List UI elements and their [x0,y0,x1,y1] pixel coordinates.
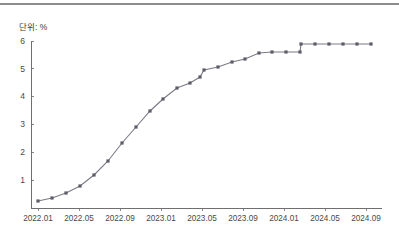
series-data-point [369,42,372,45]
series-data-point [188,81,191,84]
y-tick-label: 1 [20,175,25,185]
series-data-point [161,97,164,100]
series-data-point [64,191,67,194]
y-tick-label: 6 [20,36,25,46]
x-tick-label: 2024.09 [351,214,381,223]
x-tick-label: 2022.05 [64,214,94,223]
x-tick-label: 2023.05 [187,214,217,223]
series-data-point [148,109,151,112]
x-tick-label: 2024.01 [269,214,299,223]
series-data-point [216,65,219,68]
series-data-point [270,50,273,53]
x-axis-labels: 2022.012022.052022.092023.012023.052023.… [23,214,381,223]
series-data-point [284,50,287,53]
series-data-point [78,184,81,187]
x-tick-label: 2024.05 [310,214,340,223]
chart-container: 단위: % 2022.012022.052022.092023.012023.0… [0,0,399,242]
series-data-point [202,68,205,71]
series-data-point [120,141,123,144]
series-data-point [134,125,137,128]
series-data-point [298,50,301,53]
y-tick-label: 5 [20,64,25,74]
x-tick-label: 2023.09 [228,214,258,223]
series-data-point [313,42,316,45]
series-data-point [257,51,260,54]
series-data-point [243,57,246,60]
y-axis-labels: 123456 [20,36,25,185]
series-data-point [299,42,302,45]
series-data-point [327,42,330,45]
line-chart-plot: 2022.012022.052022.092023.012023.052023.… [0,0,399,242]
x-tick-label: 2022.09 [105,214,135,223]
series-data-point [106,159,109,162]
y-tick-label: 4 [20,91,25,101]
y-tick-label: 3 [20,119,25,129]
y-tick-label: 2 [20,147,25,157]
series-data-point [50,196,53,199]
series-data-point [355,42,358,45]
series-line [38,44,371,201]
series-data-point [341,42,344,45]
x-tick-label: 2023.01 [146,214,176,223]
series-data-point [198,75,201,78]
series-markers [36,42,372,202]
series-data-point [230,60,233,63]
x-tick-label: 2022.01 [23,214,53,223]
series-data-point [92,173,95,176]
series-data-point [175,86,178,89]
series-data-point [36,199,39,202]
